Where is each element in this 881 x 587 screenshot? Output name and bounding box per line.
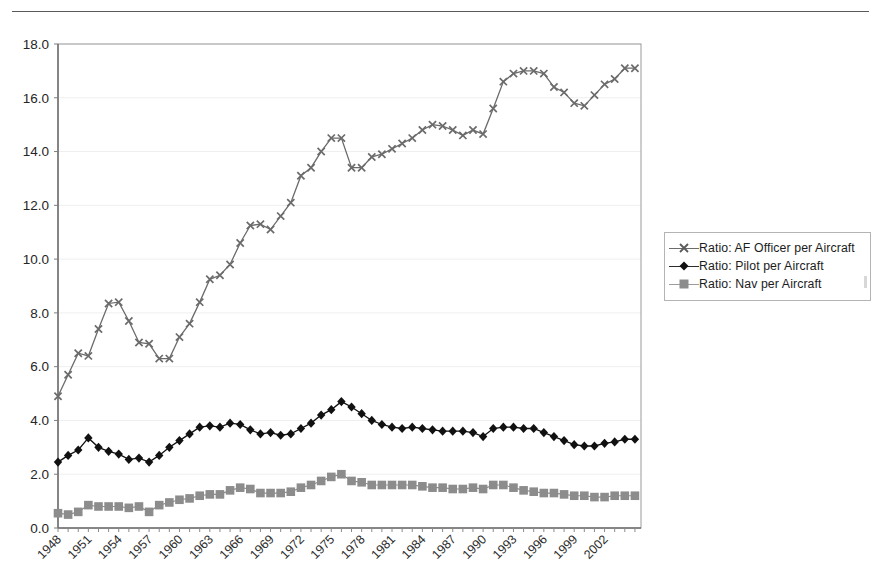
legend-item-nav[interactable]: Ratio: Nav per Aircraft xyxy=(669,275,864,293)
data-point xyxy=(600,439,608,448)
data-point xyxy=(500,78,507,85)
data-point xyxy=(266,428,274,437)
data-point xyxy=(186,320,193,327)
data-point xyxy=(570,491,579,500)
y-axis: 0.02.04.06.08.010.012.014.016.018.0 xyxy=(23,37,58,536)
data-point xyxy=(600,493,609,502)
data-point xyxy=(297,424,305,433)
data-point xyxy=(469,126,476,133)
data-point xyxy=(165,443,173,452)
data-point xyxy=(307,481,316,490)
x-tick-label: 1999 xyxy=(551,532,581,562)
data-point xyxy=(357,409,365,418)
data-point xyxy=(216,490,225,499)
data-point xyxy=(428,425,436,434)
data-point xyxy=(236,420,244,429)
gridlines xyxy=(58,44,641,474)
data-point xyxy=(135,453,143,462)
series-line xyxy=(58,402,635,463)
data-point xyxy=(104,447,112,456)
x-tick-label: 1990 xyxy=(460,532,490,562)
data-point xyxy=(540,428,548,437)
legend-item-pilot[interactable]: Ratio: Pilot per Aircraft xyxy=(669,257,864,275)
data-point xyxy=(246,425,254,434)
data-point xyxy=(459,427,467,436)
x-tick-label: 1951 xyxy=(65,532,95,562)
data-point xyxy=(74,508,83,517)
data-point xyxy=(449,126,456,133)
data-point xyxy=(175,436,183,445)
x-tick-label: 1993 xyxy=(490,532,520,562)
data-point xyxy=(418,424,426,433)
x-tick-label: 1984 xyxy=(399,532,429,562)
data-point xyxy=(145,458,153,467)
header-rule xyxy=(12,11,869,12)
data-point xyxy=(337,397,345,406)
data-point xyxy=(540,489,549,498)
data-point xyxy=(54,458,62,467)
data-point xyxy=(226,419,234,428)
data-point xyxy=(378,481,387,490)
data-point xyxy=(480,130,487,137)
data-point xyxy=(398,481,407,490)
y-tick-label: 0.0 xyxy=(30,521,49,536)
data-point xyxy=(327,473,336,482)
data-point xyxy=(550,83,557,90)
data-point xyxy=(408,481,417,490)
data-point xyxy=(196,423,204,432)
chart-legend: Ratio: AF Officer per Aircraft Ratio: Pi… xyxy=(664,232,871,301)
data-point xyxy=(399,140,406,147)
data-point xyxy=(125,455,133,464)
x-tick-label: 1957 xyxy=(126,532,156,562)
data-point xyxy=(469,428,477,437)
data-point xyxy=(590,493,599,502)
data-point xyxy=(489,481,498,490)
data-point xyxy=(621,435,629,444)
legend-item-af-officer[interactable]: Ratio: AF Officer per Aircraft xyxy=(669,239,864,257)
x-tick-label: 1978 xyxy=(338,532,368,562)
square-marker-icon xyxy=(669,276,699,292)
legend-label-nav: Ratio: Nav per Aircraft xyxy=(699,277,822,291)
data-point xyxy=(176,333,183,340)
data-point xyxy=(287,429,295,438)
data-point xyxy=(206,276,213,283)
data-point xyxy=(409,135,416,142)
data-point xyxy=(246,485,255,494)
data-point xyxy=(580,441,588,450)
page-header-text xyxy=(30,0,850,3)
data-point xyxy=(276,489,285,498)
data-point xyxy=(327,405,335,414)
data-point xyxy=(418,482,427,491)
data-point xyxy=(489,424,497,433)
data-point xyxy=(226,486,235,495)
data-point xyxy=(388,481,397,490)
data-point xyxy=(155,501,164,510)
data-point xyxy=(54,509,63,518)
y-tick-label: 4.0 xyxy=(30,413,49,428)
x-tick-label: 1972 xyxy=(277,532,307,562)
series-line xyxy=(58,68,635,396)
series-x xyxy=(54,65,638,400)
data-point xyxy=(631,491,640,500)
series-square xyxy=(54,470,640,519)
data-point xyxy=(611,75,618,82)
data-point xyxy=(368,416,376,425)
data-point xyxy=(570,440,578,449)
data-point xyxy=(438,483,447,492)
diamond-marker-icon xyxy=(669,258,699,274)
x-tick-label: 1963 xyxy=(186,532,216,562)
x-tick-label: 2002 xyxy=(581,532,611,562)
data-point xyxy=(428,483,437,492)
data-point xyxy=(297,483,306,492)
data-point xyxy=(590,441,598,450)
data-point xyxy=(479,485,488,494)
data-point xyxy=(256,489,265,498)
data-point xyxy=(125,504,134,513)
data-point xyxy=(499,423,507,432)
data-point xyxy=(408,423,416,432)
y-tick-label: 18.0 xyxy=(23,37,49,52)
data-point xyxy=(287,487,296,496)
data-point xyxy=(115,449,123,458)
data-point xyxy=(529,487,538,496)
data-point xyxy=(347,402,355,411)
